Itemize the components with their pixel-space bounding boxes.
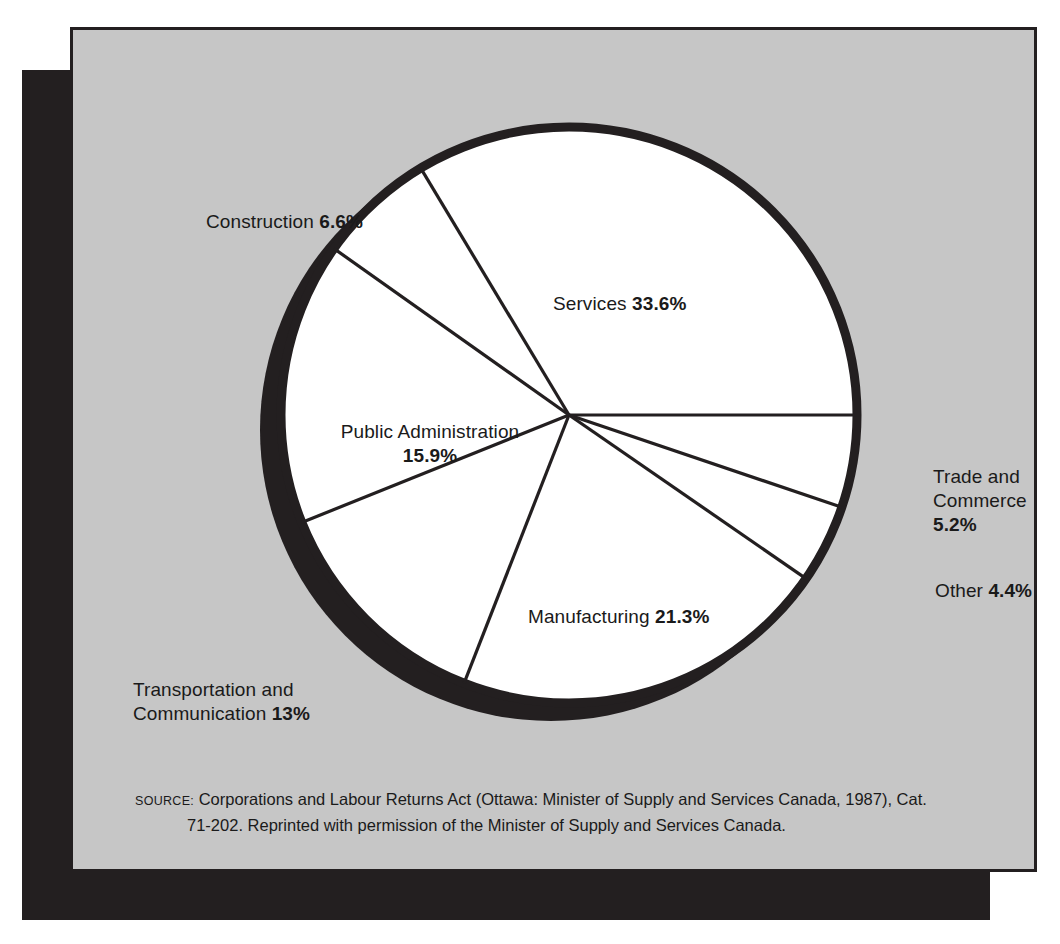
pie-label-public-administration-name: Public Administration <box>341 421 519 442</box>
pie-label-other-name: Other <box>935 580 988 601</box>
source-note-body: Source: Corporations and Labour Returns … <box>135 787 935 837</box>
pie-label-other-value: 4.4% <box>988 580 1032 601</box>
pie-label-trade-and-commerce: Trade and Commerce 5.2% <box>933 465 1040 537</box>
pie-label-manufacturing-value: 21.3% <box>655 606 709 627</box>
pie-chart-area: Construction 6.6% Services 33.6% Public … <box>73 30 1040 875</box>
pie-label-services-name: Services <box>553 293 632 314</box>
pie-label-trade-value: 5.2% <box>933 514 977 535</box>
pie-label-transportation-and-communication: Transportation and Communication 13% <box>133 678 310 726</box>
source-note-text: Corporations and Labour Returns Act (Ott… <box>187 790 927 834</box>
pie-label-construction: Construction 6.6% <box>206 210 363 234</box>
pie-label-public-administration-value: 15.9% <box>403 445 457 466</box>
source-note: Source: Corporations and Labour Returns … <box>135 787 935 837</box>
source-note-kicker: Source: <box>135 794 194 808</box>
pie-label-services: Services 33.6% <box>553 292 686 316</box>
pie-label-services-value: 33.6% <box>632 293 686 314</box>
figure-page: Construction 6.6% Services 33.6% Public … <box>0 0 1060 944</box>
pie-label-other: Other 4.4% <box>935 579 1032 603</box>
pie-label-construction-name: Construction <box>206 211 319 232</box>
pie-label-transport-value: 13% <box>272 703 310 724</box>
pie-label-manufacturing-name: Manufacturing <box>528 606 655 627</box>
pie-label-construction-value: 6.6% <box>319 211 363 232</box>
pie-label-trade-line1: Trade and <box>933 466 1020 487</box>
pie-label-transport-line1: Transportation and <box>133 679 294 700</box>
pie-label-trade-line2: Commerce <box>933 490 1027 511</box>
pie-label-transport-line2: Communication <box>133 703 272 724</box>
pie-label-public-administration: Public Administration 15.9% <box>305 420 555 468</box>
pie-chart-svg <box>73 30 1040 875</box>
chart-panel: Construction 6.6% Services 33.6% Public … <box>70 27 1037 872</box>
pie-label-manufacturing: Manufacturing 21.3% <box>528 605 709 629</box>
